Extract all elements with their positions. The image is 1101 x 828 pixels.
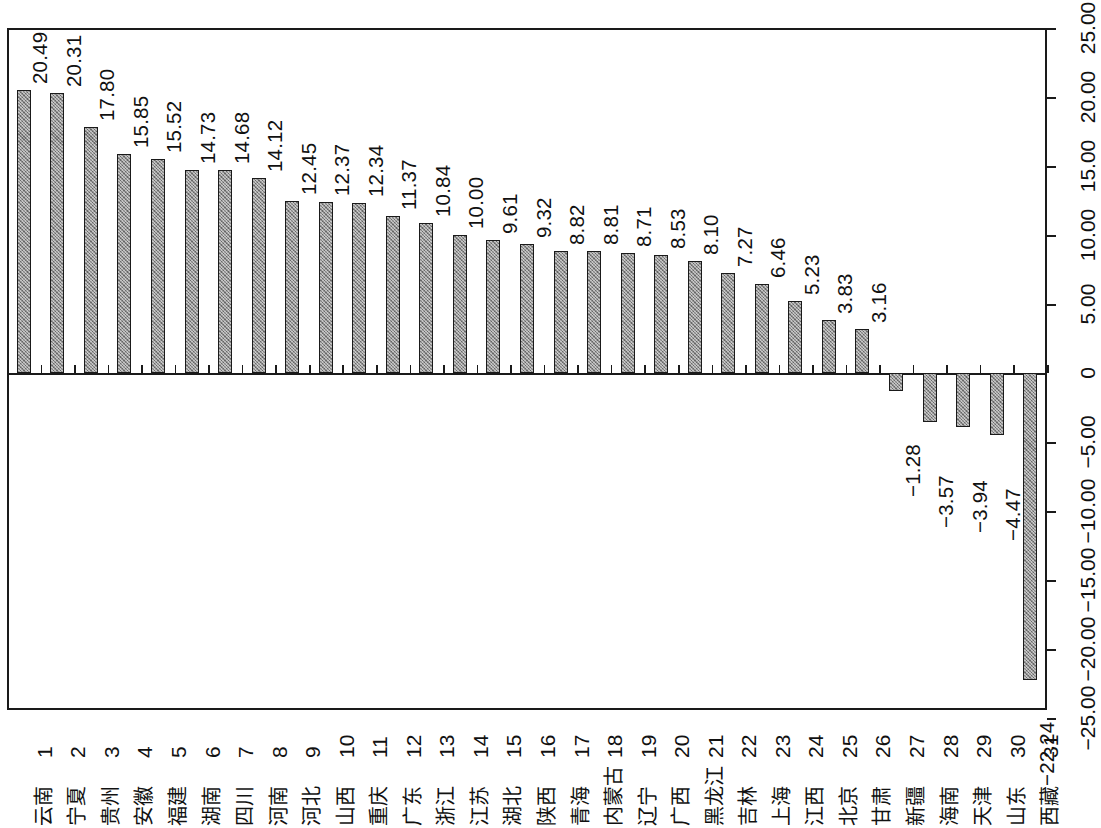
x-axis-index-label: 2 — [67, 746, 88, 758]
bar-value-label: −3.57 — [936, 475, 957, 528]
x-axis-index-label: 25 — [839, 735, 860, 758]
x-axis-tick — [141, 365, 143, 373]
bar-value-label: 11.37 — [399, 159, 420, 210]
bar-value-label: 7.27 — [735, 226, 756, 267]
x-axis-index-label: 12 — [403, 735, 424, 758]
bar-value-label: 3.83 — [835, 273, 856, 314]
x-axis-category-label: 辽宁 — [638, 786, 658, 826]
bar-value-label: 8.53 — [668, 209, 689, 250]
y-axis-tick — [1047, 511, 1056, 513]
x-axis-category-label: 江苏 — [470, 786, 490, 826]
bar-value-label: 14.73 — [198, 111, 219, 163]
x-axis-tick — [74, 365, 76, 373]
bar-value-label: 15.85 — [131, 96, 152, 148]
bar — [654, 255, 668, 373]
x-axis-tick — [611, 365, 613, 373]
x-axis-index-labels: 1234567891011121314151617181920212223242… — [7, 716, 1047, 764]
bar — [621, 253, 635, 373]
y-axis-tick — [1047, 166, 1056, 168]
x-axis-tick — [175, 365, 177, 373]
bar-value-label: −1.28 — [903, 444, 924, 497]
y-axis-tick — [1047, 442, 1056, 444]
x-axis-category-label: 黑龙江 — [705, 766, 725, 826]
x-axis-tick — [678, 365, 680, 373]
bar-value-label: −3.94 — [970, 480, 991, 533]
x-axis-tick — [309, 365, 311, 373]
x-axis-category-label: 甘肃 — [872, 786, 892, 826]
x-axis-index-label: 5 — [168, 746, 189, 758]
x-axis-tick — [644, 365, 646, 373]
bar — [185, 170, 199, 373]
x-axis-tick — [275, 365, 277, 373]
bar-value-label: 8.10 — [701, 215, 722, 256]
bar — [352, 203, 366, 373]
x-axis-index-label: 1 — [34, 746, 55, 758]
x-axis-category-label: 宁夏 — [67, 786, 87, 826]
bar — [520, 244, 534, 373]
bar — [17, 90, 31, 373]
x-axis-index-label: 15 — [503, 735, 524, 758]
bar — [84, 127, 98, 373]
y-axis-tick-label: −5.00 — [1077, 415, 1098, 468]
x-axis-index-label: 16 — [537, 735, 558, 758]
x-axis-category-label: 安徽 — [134, 786, 154, 826]
bar — [1023, 373, 1037, 680]
bar — [117, 154, 131, 373]
x-axis-category-label: 山西 — [336, 786, 356, 826]
x-axis-category-label: 海南 — [940, 786, 960, 826]
y-axis-tick-label: 25.00 — [1077, 2, 1098, 55]
bars-layer: 20.4920.3117.8015.8515.5214.7314.6814.12… — [7, 28, 1047, 710]
x-axis-category-label: 湖南 — [202, 786, 222, 826]
x-axis-tick — [779, 365, 781, 373]
bar — [923, 373, 937, 422]
bar — [453, 235, 467, 373]
x-axis-index-label: 10 — [336, 735, 357, 758]
y-axis-tick — [1047, 235, 1056, 237]
y-axis-tick-label: −15.00 — [1077, 548, 1098, 613]
bar-value-label: 20.31 — [64, 34, 85, 86]
x-axis-category-label: 陕西 — [537, 786, 557, 826]
y-axis-tick — [1047, 97, 1056, 99]
bar-value-label: 12.34 — [366, 144, 387, 196]
bar — [50, 93, 64, 373]
x-axis-index-label: 9 — [302, 746, 323, 758]
x-axis-tick — [879, 365, 881, 373]
bar — [822, 320, 836, 373]
bar — [218, 170, 232, 373]
x-axis-index-label: 4 — [134, 746, 155, 758]
x-axis-tick — [477, 365, 479, 373]
x-axis-tick — [913, 365, 915, 373]
y-axis-tick — [1047, 28, 1056, 30]
bar — [990, 373, 1004, 435]
bar-value-label: 14.12 — [265, 120, 286, 172]
x-axis-tick — [812, 365, 814, 373]
x-axis-category-label: 四川 — [235, 786, 255, 826]
x-axis-tick — [41, 365, 43, 373]
y-axis-tick-label: 0 — [1077, 367, 1098, 379]
x-axis-tick — [108, 365, 110, 373]
x-axis-index-label: 24 — [805, 735, 826, 758]
x-axis-category-label: 浙江 — [436, 786, 456, 826]
x-axis-index-label: 26 — [872, 735, 893, 758]
x-axis-tick — [544, 365, 546, 373]
bar — [587, 251, 601, 373]
x-axis-category-label: 重庆 — [369, 786, 389, 826]
x-axis-index-label: 19 — [638, 735, 659, 758]
x-axis-index-label: 28 — [940, 735, 961, 758]
x-axis-index-label: 29 — [973, 735, 994, 758]
bar — [386, 216, 400, 373]
x-axis-category-label: 天津 — [973, 786, 993, 826]
bar — [855, 329, 869, 373]
x-axis-category-label: 湖北 — [503, 786, 523, 826]
x-axis-tick — [242, 365, 244, 373]
y-axis-tick-label: −25.00 — [1077, 686, 1098, 751]
x-axis-category-label: 吉林 — [738, 786, 758, 826]
x-axis-index-label: 17 — [571, 735, 592, 758]
x-axis-index-label: 18 — [604, 735, 625, 758]
x-axis-index-label: 27 — [906, 735, 927, 758]
x-axis-category-label: 广东 — [403, 786, 423, 826]
bar-value-label: 12.45 — [299, 143, 320, 195]
bar-value-label: −4.47 — [1003, 488, 1024, 541]
x-axis-category-label: 贵州 — [101, 786, 121, 826]
bar — [889, 373, 903, 391]
